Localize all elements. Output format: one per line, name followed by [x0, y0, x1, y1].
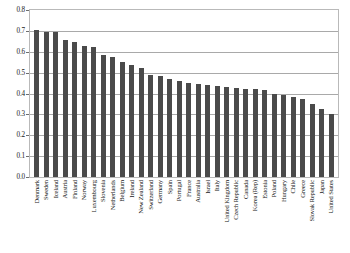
x-label-column: France [184, 179, 194, 253]
bar-column [51, 10, 61, 177]
x-axis-label: Spain [166, 180, 173, 194]
bar [196, 84, 201, 177]
bar-column [308, 10, 318, 177]
x-axis-label: Japan [318, 180, 325, 194]
bar [82, 46, 87, 178]
bar [53, 32, 58, 177]
x-axis-label: Norway [81, 180, 88, 200]
bar-column [89, 10, 99, 177]
bar-column [222, 10, 232, 177]
x-axis-label: New Zealand [138, 180, 145, 214]
x-axis-label: Germany [157, 180, 164, 203]
x-label-column: Finland [70, 179, 80, 253]
x-label-column: Austria [61, 179, 71, 253]
x-axis-label: Poland [271, 180, 278, 197]
x-label-column: Netherlands [108, 179, 118, 253]
y-axis: 0.00.10.20.30.40.50.60.70.8 [0, 0, 29, 188]
x-axis-label: Sweden [43, 180, 50, 200]
x-label-column: Portugal [175, 179, 185, 253]
bar-column [137, 10, 147, 177]
bar [186, 83, 191, 177]
bar-column [270, 10, 280, 177]
bar-column [175, 10, 185, 177]
x-axis-label: Hungary [280, 180, 287, 202]
x-label-column: New Zealand [137, 179, 147, 253]
x-label-column: Poland [270, 179, 280, 253]
x-label-column: Belgium [118, 179, 128, 253]
bar-column [251, 10, 261, 177]
x-label-column: Chile [289, 179, 299, 253]
bar-column [61, 10, 71, 177]
y-tick-label: 0.5 [17, 69, 25, 76]
x-axis-label: France [185, 180, 192, 197]
x-label-column: Hungary [279, 179, 289, 253]
bar-column [241, 10, 251, 177]
x-axis-labels: DenmarkSwedenIcelandAustriaFinlandNorway… [30, 179, 338, 253]
bar-column [32, 10, 42, 177]
bar [44, 32, 49, 177]
x-axis-label: Netherlands [109, 180, 116, 210]
x-label-column: Canada [241, 179, 251, 253]
x-axis-label: Italy [214, 180, 221, 191]
bar-column [70, 10, 80, 177]
bar-column [289, 10, 299, 177]
x-axis-label: Austria [62, 180, 69, 198]
bar-column [118, 10, 128, 177]
x-label-column: Iceland [51, 179, 61, 253]
bar [148, 75, 153, 177]
x-axis-label: Slovenia [100, 180, 107, 202]
bar [215, 86, 220, 177]
bar [158, 76, 163, 177]
bar [262, 90, 267, 177]
x-label-column: Estonia [260, 179, 270, 253]
bar-column [260, 10, 270, 177]
bar [224, 87, 229, 177]
bar-column [165, 10, 175, 177]
bar [291, 97, 296, 177]
bar-column [317, 10, 327, 177]
bar [319, 109, 324, 177]
y-tick-label: 0.1 [17, 153, 25, 160]
x-label-column: Japan [317, 179, 327, 253]
bar [281, 95, 286, 177]
bar-chart: 0.00.10.20.30.40.50.60.70.8 DenmarkSwede… [0, 0, 350, 253]
x-axis-label: United Kingdom [223, 180, 230, 222]
bar-column [327, 10, 337, 177]
x-label-column: Germany [156, 179, 166, 253]
bar [129, 65, 134, 177]
x-label-column: Italy [213, 179, 223, 253]
x-label-column: Luxembourg [89, 179, 99, 253]
x-label-column: Denmark [32, 179, 42, 253]
y-tick-label: 0.6 [17, 48, 25, 55]
bar [91, 47, 96, 177]
x-axis-label: Portugal [176, 180, 183, 201]
x-axis-label: Czech Republic [233, 180, 240, 220]
bar [72, 42, 77, 177]
x-axis-label: United States [328, 180, 335, 213]
y-tick-label: 0.0 [17, 174, 25, 181]
bar-column [108, 10, 118, 177]
bar [234, 88, 239, 177]
x-axis-label: Estonia [261, 180, 268, 199]
x-axis-label: Iceland [52, 180, 59, 198]
bar [205, 85, 210, 177]
x-label-column: Slovenia [99, 179, 109, 253]
bar [139, 68, 144, 177]
x-label-column: United Kingdom [222, 179, 232, 253]
bar [310, 104, 315, 177]
x-axis-label: Canada [242, 180, 249, 199]
bar-series [30, 10, 338, 177]
x-label-column: Australia [194, 179, 204, 253]
x-axis-label: Chile [290, 180, 297, 194]
bar [243, 89, 248, 177]
x-axis-label: Finland [71, 180, 78, 199]
x-label-column: United States [327, 179, 337, 253]
y-tick-label: 0.3 [17, 111, 25, 118]
bar [177, 81, 182, 177]
x-label-column: Ireland [127, 179, 137, 253]
y-tick-label: 0.8 [17, 7, 25, 14]
bar-column [298, 10, 308, 177]
bar [329, 114, 334, 177]
x-axis-label: Australia [195, 180, 202, 203]
bar [167, 79, 172, 177]
